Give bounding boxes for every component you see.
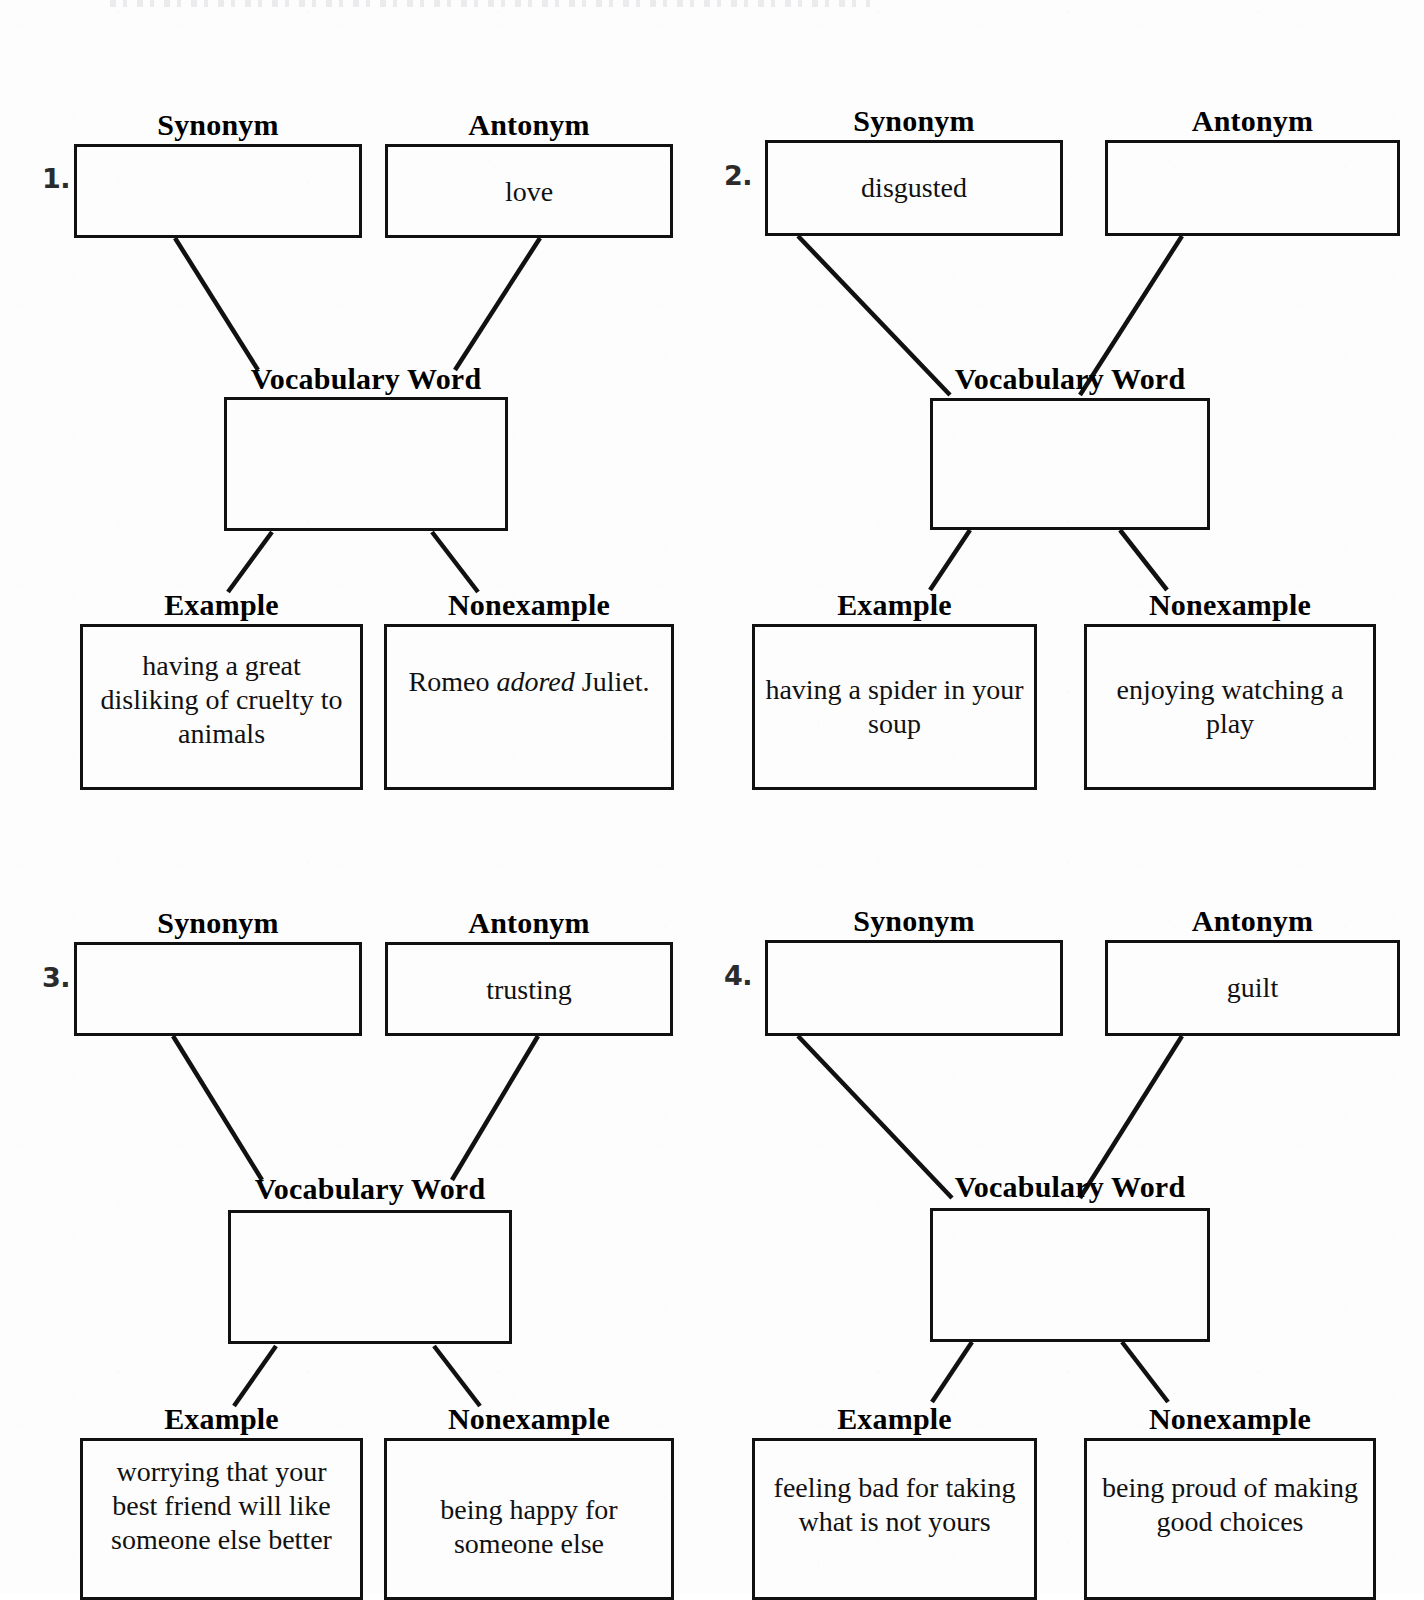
- vocabulary-word-box-item-2[interactable]: [930, 398, 1210, 530]
- example-box-item-1[interactable]: having a great disliking of cruelty to a…: [80, 624, 363, 790]
- antonym-value: trusting: [396, 973, 662, 1007]
- antonym-heading: Antonym: [385, 108, 673, 142]
- example-box-item-4[interactable]: feeling bad for taking what is not yours: [752, 1438, 1037, 1600]
- nonexample-value: being proud of making good choices: [1095, 1471, 1365, 1539]
- synonym-box-item-4[interactable]: [765, 940, 1063, 1036]
- nonexample-suffix: Juliet.: [575, 666, 650, 697]
- nonexample-heading: Nonexample: [1084, 588, 1376, 622]
- worksheet-item-1: 1. Synonym Antonym love Vocabulary Word …: [0, 40, 700, 800]
- vocabulary-word-heading: Vocabulary Word: [228, 1172, 512, 1206]
- antonym-box-item-1[interactable]: love: [385, 144, 673, 238]
- worksheet-item-3: 3. Synonym Antonym trusting Vocabulary W…: [0, 840, 700, 1600]
- example-heading: Example: [80, 588, 363, 622]
- synonym-value: disgusted: [776, 171, 1052, 205]
- worksheet-item-4: 4. Synonym Antonym guilt Vocabulary Word…: [712, 840, 1412, 1600]
- nonexample-value: being happy for someone else: [395, 1493, 663, 1561]
- example-box-item-2[interactable]: having a spider in your soup: [752, 624, 1037, 790]
- scan-artifact-top: [110, 0, 870, 7]
- item-number: 4.: [724, 960, 752, 991]
- example-heading: Example: [752, 1402, 1037, 1436]
- antonym-value: guilt: [1116, 971, 1389, 1005]
- example-value: feeling bad for taking what is not yours: [763, 1471, 1026, 1539]
- synonym-heading: Synonym: [765, 104, 1063, 138]
- antonym-heading: Antonym: [1105, 904, 1400, 938]
- antonym-box-item-3[interactable]: trusting: [385, 942, 673, 1036]
- nonexample-value: Romeo adored Juliet.: [395, 665, 663, 699]
- item-number: 3.: [42, 962, 70, 993]
- vocabulary-word-box-item-3[interactable]: [228, 1210, 512, 1344]
- example-value: worrying that your best friend will like…: [91, 1455, 352, 1557]
- nonexample-heading: Nonexample: [384, 588, 674, 622]
- nonexample-heading: Nonexample: [1084, 1402, 1376, 1436]
- item-number: 1.: [42, 163, 70, 194]
- nonexample-heading: Nonexample: [384, 1402, 674, 1436]
- nonexample-box-item-4[interactable]: being proud of making good choices: [1084, 1438, 1376, 1600]
- example-value: having a spider in your soup: [763, 673, 1026, 741]
- example-heading: Example: [80, 1402, 363, 1436]
- nonexample-value: enjoying watching a play: [1095, 673, 1365, 741]
- synonym-heading: Synonym: [765, 904, 1063, 938]
- synonym-box-item-3[interactable]: [74, 942, 362, 1036]
- antonym-box-item-4[interactable]: guilt: [1105, 940, 1400, 1036]
- synonym-heading: Synonym: [74, 108, 362, 142]
- antonym-heading: Antonym: [1105, 104, 1400, 138]
- nonexample-box-item-2[interactable]: enjoying watching a play: [1084, 624, 1376, 790]
- nonexample-italic-word: adored: [496, 666, 574, 697]
- antonym-value: love: [396, 175, 662, 209]
- synonym-heading: Synonym: [74, 906, 362, 940]
- nonexample-prefix: Romeo: [409, 666, 497, 697]
- vocabulary-word-heading: Vocabulary Word: [224, 362, 508, 396]
- item-number: 2.: [724, 160, 752, 191]
- nonexample-box-item-1[interactable]: Romeo adored Juliet.: [384, 624, 674, 790]
- antonym-heading: Antonym: [385, 906, 673, 940]
- vocabulary-word-heading: Vocabulary Word: [930, 1170, 1210, 1204]
- vocabulary-word-box-item-1[interactable]: [224, 397, 508, 531]
- vocabulary-word-heading: Vocabulary Word: [930, 362, 1210, 396]
- nonexample-box-item-3[interactable]: being happy for someone else: [384, 1438, 674, 1600]
- synonym-box-item-1[interactable]: [74, 144, 362, 238]
- vocabulary-word-box-item-4[interactable]: [930, 1208, 1210, 1342]
- example-heading: Example: [752, 588, 1037, 622]
- synonym-box-item-2[interactable]: disgusted: [765, 140, 1063, 236]
- worksheet-item-2: 2. Synonym disgusted Antonym Vocabulary …: [712, 40, 1412, 800]
- antonym-box-item-2[interactable]: [1105, 140, 1400, 236]
- example-box-item-3[interactable]: worrying that your best friend will like…: [80, 1438, 363, 1600]
- example-value: having a great disliking of cruelty to a…: [91, 649, 352, 751]
